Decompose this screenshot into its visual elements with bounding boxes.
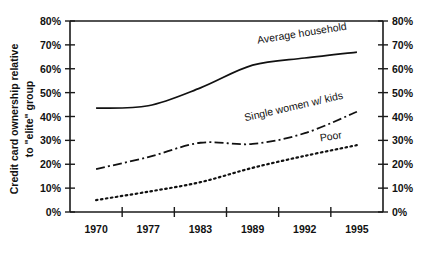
series-label-2: Single women w/ kids <box>243 89 344 123</box>
y-tick-label-right: 70% <box>392 39 414 51</box>
series-label-1: Average household <box>256 20 347 46</box>
y-tick-label-left: 10% <box>40 182 62 194</box>
y-tick-label-right: 20% <box>392 158 414 170</box>
x-tick-label: 1989 <box>241 223 265 235</box>
y-axis-title: Credit card ownership relative to "elite… <box>8 44 35 195</box>
y-tick-label-right: 40% <box>392 111 414 123</box>
series-lines <box>96 52 357 200</box>
y-tick-label-left: 20% <box>40 158 62 170</box>
x-tick-label: 1995 <box>345 223 369 235</box>
x-tick-label: 1977 <box>137 223 161 235</box>
y-tick-label-right: 0% <box>392 206 408 218</box>
y-axis-title-line2: to "elite" group <box>23 81 35 157</box>
y-tick-label-left: 70% <box>40 39 62 51</box>
y-tick-label-left: 80% <box>40 15 62 27</box>
x-tick-label: 1983 <box>189 223 213 235</box>
y-axis-left: 0%10%20%30%40%50%60%70%80% <box>40 15 75 218</box>
series-line <box>96 145 357 200</box>
y-tick-label-left: 60% <box>40 63 62 75</box>
y-tick-label-left: 0% <box>46 206 62 218</box>
chart-container: Credit card ownership relative to "elite… <box>0 0 432 255</box>
y-axis-title-line1: Credit card ownership relative <box>8 44 20 195</box>
series-label-3: Poor <box>319 128 343 143</box>
y-tick-label-left: 30% <box>40 134 62 146</box>
line-chart: Credit card ownership relative to "elite… <box>0 0 432 255</box>
series-line <box>96 112 357 169</box>
y-tick-label-right: 80% <box>392 15 414 27</box>
y-tick-label-left: 40% <box>40 111 62 123</box>
y-tick-label-right: 60% <box>392 63 414 75</box>
y-tick-label-left: 50% <box>40 87 62 99</box>
y-tick-label-right: 10% <box>392 182 414 194</box>
x-tick-label: 1992 <box>293 223 317 235</box>
x-tick-label: 1970 <box>84 223 108 235</box>
y-tick-label-right: 50% <box>392 87 414 99</box>
y-axis-right: 0%10%20%30%40%50%60%70%80% <box>378 15 414 218</box>
y-tick-label-right: 30% <box>392 134 414 146</box>
series-annotations: Average householdSingle women w/ kidsPoo… <box>243 20 347 144</box>
